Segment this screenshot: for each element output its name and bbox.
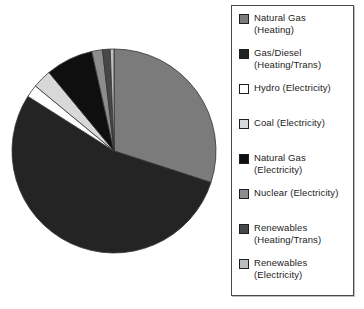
legend-label-line2: (Heating): [254, 24, 306, 36]
legend-swatch: [239, 14, 249, 24]
legend-label: Hydro (Electricity): [254, 82, 331, 94]
legend-item-coal-electricity: Coal (Electricity): [239, 117, 350, 152]
legend-label-line1: Renewables: [254, 257, 307, 269]
legend-label-line2: (Heating/Trans): [254, 59, 321, 71]
legend-label-line2: (Heating/Trans): [254, 234, 321, 246]
legend-label-line1: Natural Gas: [254, 152, 306, 164]
legend-item-renewables-electricity: Renewables (Electricity): [239, 257, 350, 292]
legend-label-line1: Renewables: [254, 222, 321, 234]
legend-item-renewables-heating-trans: Renewables (Heating/Trans): [239, 222, 350, 257]
legend-label-line1: Gas/Diesel: [254, 47, 321, 59]
legend-swatch: [239, 49, 249, 59]
legend-item-nuclear-electricity: Nuclear (Electricity): [239, 187, 350, 222]
legend-label: Coal (Electricity): [254, 117, 325, 129]
legend-label: Renewables (Heating/Trans): [254, 222, 321, 246]
legend-label: Natural Gas (Heating): [254, 12, 306, 36]
legend-label-line1: Hydro (Electricity): [254, 82, 331, 94]
legend: Natural Gas (Heating) Gas/Diesel (Heatin…: [231, 5, 354, 296]
legend-swatch: [239, 154, 249, 164]
legend-item-gas-diesel-heating-trans: Gas/Diesel (Heating/Trans): [239, 47, 350, 82]
legend-label: Natural Gas (Electricity): [254, 152, 306, 176]
legend-swatch: [239, 224, 249, 234]
energy-pie-chart-figure: Natural Gas (Heating) Gas/Diesel (Heatin…: [0, 0, 364, 309]
legend-label-line2: (Electricity): [254, 269, 307, 281]
legend-label-line1: Nuclear (Electricity): [254, 187, 338, 199]
legend-label: Nuclear (Electricity): [254, 187, 338, 199]
legend-swatch: [239, 189, 249, 199]
legend-label-line2: (Electricity): [254, 164, 306, 176]
legend-swatch: [239, 259, 249, 269]
legend-item-natural-gas-electricity: Natural Gas (Electricity): [239, 152, 350, 187]
legend-label: Renewables (Electricity): [254, 257, 307, 281]
legend-label: Gas/Diesel (Heating/Trans): [254, 47, 321, 71]
legend-item-natural-gas-heating: Natural Gas (Heating): [239, 12, 350, 47]
pie-chart: [0, 0, 230, 309]
legend-swatch: [239, 84, 249, 94]
legend-item-hydro-electricity: Hydro (Electricity): [239, 82, 350, 117]
legend-label-line1: Coal (Electricity): [254, 117, 325, 129]
legend-swatch: [239, 119, 249, 129]
legend-label-line1: Natural Gas: [254, 12, 306, 24]
